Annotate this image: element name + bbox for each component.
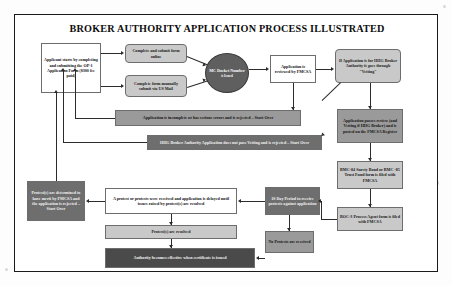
arrowhead bbox=[61, 68, 65, 71]
connector-boc3-to-tenday bbox=[321, 219, 337, 220]
arrowhead bbox=[169, 222, 173, 225]
mc-docket-sublabel: is Issued bbox=[221, 74, 233, 78]
connector-protest-to-merit bbox=[89, 201, 105, 202]
arrowhead bbox=[266, 67, 269, 71]
scan-artifact bbox=[443, 5, 446, 8]
node-application-passes: Application passes review (and Vetting i… bbox=[337, 109, 403, 143]
connector-hhg-to-rejected bbox=[322, 82, 341, 101]
connector-incomplete-return bbox=[75, 118, 115, 119]
connector-applicant-to-online bbox=[101, 53, 121, 54]
node-protest-received: A protest or protests were received and … bbox=[105, 188, 237, 214]
arrowhead bbox=[169, 245, 173, 248]
node-hhg-rejected: HHG Broker Authority Application does no… bbox=[147, 135, 322, 150]
page-title: BROKER AUTHORITY APPLICATION PROCESS ILL… bbox=[15, 23, 439, 34]
arrowhead bbox=[54, 90, 58, 93]
node-hhg-vetting: If Application is for HHG Broker Authori… bbox=[335, 49, 401, 83]
arrowhead bbox=[287, 228, 291, 231]
node-no-protests: No Protests are received bbox=[265, 231, 314, 253]
arrowhead bbox=[318, 199, 321, 203]
connector-hhgrej-return-vert bbox=[63, 71, 64, 142]
diagram-frame: BROKER AUTHORITY APPLICATION PROCESS ILL… bbox=[14, 14, 438, 272]
node-mc-docket-number: MC Docket Number is Issued bbox=[205, 53, 249, 93]
connector-review-to-incomplete bbox=[293, 83, 294, 110]
connector-merit-return bbox=[56, 93, 57, 181]
node-complete-mail: Complete form manually submit via US Mai… bbox=[125, 75, 187, 97]
connector-noprotest-to-authority bbox=[259, 258, 265, 259]
node-ten-day-period: 10 Day Period to receive protests agains… bbox=[265, 187, 320, 215]
connector-incomplete-return-vert bbox=[75, 71, 76, 118]
connector-review-to-hhg bbox=[316, 69, 331, 70]
arrowhead bbox=[256, 256, 259, 260]
node-boc3-process-agent: BOC-3 Process Agent form is filed with F… bbox=[337, 207, 403, 231]
arrowhead bbox=[331, 67, 334, 71]
arrowhead bbox=[368, 204, 372, 207]
arrowhead bbox=[73, 68, 77, 71]
node-bmc-surety-bond: BMC-84 Surety Bond or BMC -85 Trust Fund… bbox=[337, 161, 403, 189]
node-application-reviewed: Application is reviewed by FMCSA bbox=[270, 55, 316, 83]
node-protest-has-merit: Protest(s) are determined to have merit … bbox=[27, 181, 85, 221]
scan-artifact bbox=[5, 268, 8, 271]
arrowhead bbox=[368, 106, 372, 109]
connector-applicant-to-mail bbox=[101, 86, 121, 87]
node-applicant-start: Applicant starts by completing and submi… bbox=[41, 43, 101, 93]
node-complete-online: Complete and submit form online bbox=[125, 44, 187, 63]
arrowhead bbox=[121, 51, 124, 55]
connector-docket-to-review bbox=[249, 69, 266, 70]
connector-tenday-to-protest bbox=[241, 201, 265, 202]
node-authority-effective: Authority becomes effective when certifi… bbox=[105, 248, 255, 268]
scanned-flowchart-page: BROKER AUTHORITY APPLICATION PROCESS ILL… bbox=[0, 0, 452, 286]
arrowhead bbox=[238, 199, 241, 203]
arrowhead bbox=[368, 158, 372, 161]
connector-tenday-vert bbox=[321, 201, 322, 219]
connector-hhgrej-return bbox=[63, 142, 147, 143]
node-application-incomplete: Application is incomplete or has serious… bbox=[115, 110, 301, 126]
arrowhead bbox=[86, 199, 89, 203]
arrowhead bbox=[291, 107, 295, 110]
arrowhead bbox=[121, 84, 124, 88]
node-protests-resolved: Protest(s) are resolved bbox=[105, 225, 237, 239]
